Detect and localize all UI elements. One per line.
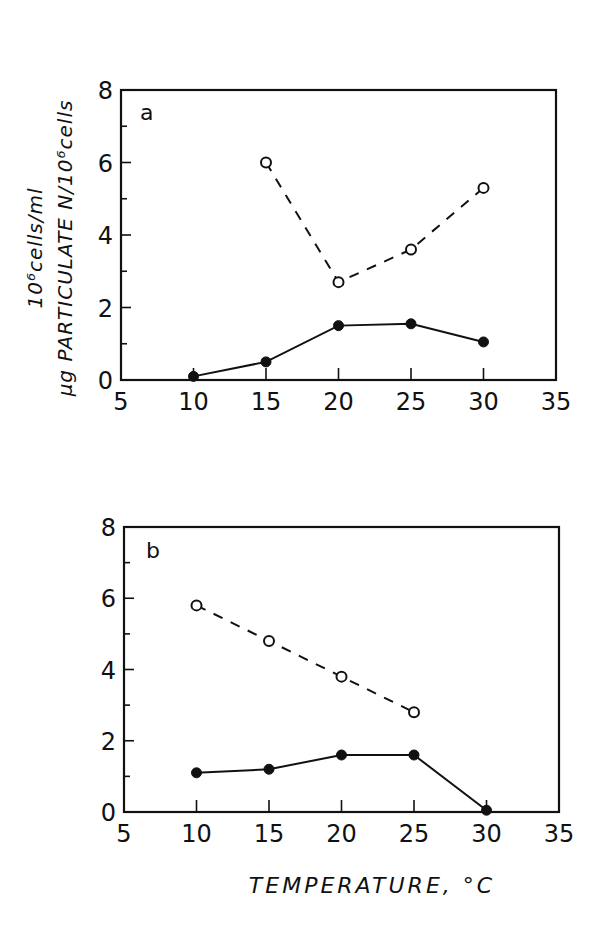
y-tick-label: 2 xyxy=(101,728,116,756)
x-tick-label: 20 xyxy=(323,388,354,416)
panel-b-y-axis: 02468 xyxy=(101,514,134,827)
x-tick-label: 15 xyxy=(251,388,282,416)
panel-b-frame xyxy=(124,527,559,812)
y-tick-label: 6 xyxy=(101,585,116,613)
y-tick-label: 4 xyxy=(98,222,113,250)
open-circle-marker xyxy=(192,600,202,610)
filled-circle-marker xyxy=(334,321,344,331)
open-circle-marker xyxy=(264,636,274,646)
panel-b-x-axis: 5101520253035 xyxy=(116,800,574,848)
x-tick-label: 10 xyxy=(178,388,209,416)
open-circle-marker xyxy=(337,672,347,682)
figure: 02468 5101520253035 a 02468 510152025303… xyxy=(0,0,597,937)
filled-circle-marker xyxy=(337,750,347,760)
open-circle-marker xyxy=(261,158,271,168)
x-tick-label: 30 xyxy=(471,820,502,848)
y-tick-label: 6 xyxy=(98,150,113,178)
y-axis-title-line1: 10⁶cells/ml xyxy=(23,187,47,308)
x-tick-label: 15 xyxy=(254,820,285,848)
dashed-series-line xyxy=(197,605,415,712)
open-circle-marker xyxy=(409,707,419,717)
filled-circle-marker xyxy=(406,319,416,329)
panel-b-letter: b xyxy=(146,538,160,563)
x-tick-label: 5 xyxy=(116,820,131,848)
y-axis-title-line2: μg PARTICULATE N/10⁶cells xyxy=(53,100,77,398)
x-tick-label: 25 xyxy=(396,388,427,416)
filled-circle-marker xyxy=(192,768,202,778)
filled-circle-marker xyxy=(409,750,419,760)
panel-a-letter: a xyxy=(140,100,153,125)
y-tick-label: 8 xyxy=(101,514,116,542)
filled-circle-marker xyxy=(482,805,492,815)
panel-a-y-axis: 02468 xyxy=(98,77,131,395)
open-circle-marker xyxy=(406,245,416,255)
panel-b-chart: 02468 5101520253035 b xyxy=(101,514,575,848)
x-tick-label: 35 xyxy=(541,388,572,416)
x-tick-label: 25 xyxy=(399,820,430,848)
dashed-series-line xyxy=(266,163,484,283)
y-tick-label: 2 xyxy=(98,295,113,323)
filled-circle-marker xyxy=(479,337,489,347)
y-tick-label: 4 xyxy=(101,657,116,685)
x-tick-label: 10 xyxy=(181,820,212,848)
panel-b-series xyxy=(192,600,492,815)
x-tick-label: 20 xyxy=(326,820,357,848)
panel-a-series xyxy=(189,158,489,382)
x-tick-label: 5 xyxy=(113,388,128,416)
y-tick-label: 8 xyxy=(98,77,113,105)
open-circle-marker xyxy=(479,183,489,193)
filled-circle-marker xyxy=(189,371,199,381)
y-tick-label: 0 xyxy=(101,799,116,827)
panel-a-x-axis: 5101520253035 xyxy=(113,368,571,416)
panel-a-frame xyxy=(121,90,556,380)
panel-a-chart: 02468 5101520253035 a xyxy=(98,77,572,416)
x-axis-title: TEMPERATURE, °C xyxy=(249,873,495,898)
y-tick-label: 0 xyxy=(98,367,113,395)
filled-circle-marker xyxy=(261,357,271,367)
x-tick-label: 30 xyxy=(468,388,499,416)
x-tick-label: 35 xyxy=(544,820,575,848)
filled-circle-marker xyxy=(264,764,274,774)
open-circle-marker xyxy=(334,277,344,287)
